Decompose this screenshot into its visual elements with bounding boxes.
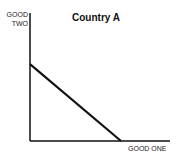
chart-plot [0, 0, 177, 161]
ppf-line [30, 64, 121, 141]
